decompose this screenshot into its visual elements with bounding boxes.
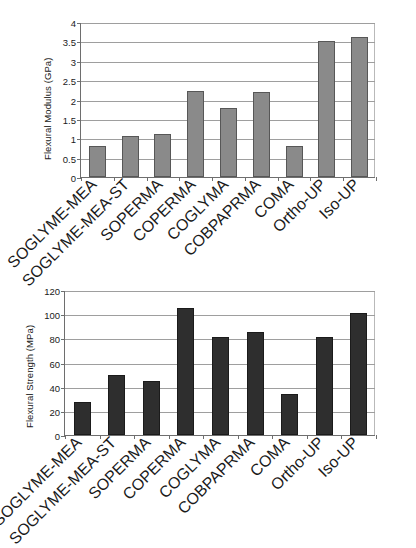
y-tick-label: 80 (49, 334, 65, 345)
x-tick-mark (238, 435, 239, 439)
x-tick-mark (376, 435, 377, 439)
x-tick-mark (307, 435, 308, 439)
plot-area-strength: 020406080100120 (64, 291, 375, 436)
bar (351, 37, 368, 177)
y-tick-label: 1 (71, 134, 81, 145)
y-axis-title-strength: Flexural Strength (MPa) (24, 325, 35, 428)
x-tick-mark (203, 435, 204, 439)
gridline (81, 23, 375, 24)
y-tick-label: 100 (44, 310, 65, 321)
bar (220, 108, 237, 177)
bar (177, 308, 194, 435)
x-tick-mark (100, 435, 101, 439)
y-tick-label: 3.5 (63, 37, 81, 48)
bar (74, 402, 91, 435)
x-tick-mark (376, 177, 377, 181)
flexural-strength-chart: Flexural Strength (MPa) 020406080100120 … (0, 270, 416, 529)
x-tick-mark (272, 435, 273, 439)
y-tick-label: 0.5 (63, 153, 81, 164)
x-tick-mark (341, 435, 342, 439)
bar (89, 146, 106, 177)
y-tick-label: 2 (71, 95, 81, 106)
x-tick-mark (169, 435, 170, 439)
bar (154, 134, 171, 177)
plot-area-modulus: 00.511.522.533.54 (80, 23, 375, 178)
y-tick-label: 120 (44, 286, 65, 297)
bar (318, 41, 335, 177)
y-tick-label: 60 (49, 358, 65, 369)
bar (281, 394, 298, 435)
bar (286, 146, 303, 177)
bar (253, 92, 270, 177)
gridline (65, 315, 375, 316)
flexural-modulus-chart: Flexural Modulus (GPa) 00.511.522.533.54… (0, 0, 416, 270)
bar (122, 136, 139, 177)
bar (108, 375, 125, 435)
y-tick-label: 2.5 (63, 76, 81, 87)
y-tick-label: 0 (55, 431, 65, 442)
bar (143, 381, 160, 435)
y-tick-label: 1.5 (63, 114, 81, 125)
bar (316, 337, 333, 435)
y-axis-title-modulus: Flexural Modulus (GPa) (42, 57, 53, 160)
bar (350, 313, 367, 435)
bar (247, 332, 264, 435)
bar (212, 337, 229, 435)
y-tick-label: 40 (49, 382, 65, 393)
y-tick-label: 4 (71, 18, 81, 29)
y-tick-label: 3 (71, 56, 81, 67)
gridline (65, 291, 375, 292)
y-tick-label: 20 (49, 406, 65, 417)
bar (187, 91, 204, 177)
